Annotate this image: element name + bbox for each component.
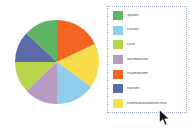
legend-item-label: Kühlen [127,28,139,32]
chart-legend[interactable]: Spülen Kühlen Licht Warmwasser Raumwärme [107,6,187,113]
legend-item[interactable]: Spülen [113,10,184,21]
legend-swatch-icon [113,55,123,64]
legend-swatch-icon [113,84,123,93]
legend-swatch-icon [113,99,123,108]
legend-item[interactable]: Kühlen [113,25,184,36]
legend-item-label: Raumwärme [127,72,148,76]
legend-item[interactable]: Raumwärme [113,69,184,80]
legend-item[interactable]: Licht [113,39,184,50]
legend-item[interactable]: Warmwasser [113,54,184,65]
legend-item[interactable]: Kochen [113,83,184,94]
pie-chart[interactable] [13,18,101,106]
legend-swatch-icon [113,26,123,35]
legend-item-label: Warmwasser [127,58,149,62]
legend-item-label: Licht [127,43,135,47]
legend-item-label: Kommunikationstechnik [127,102,167,106]
pie-chart-svg [13,18,101,106]
legend-item-list: Spülen Kühlen Licht Warmwasser Raumwärme [113,10,184,109]
chart-canvas: Spülen Kühlen Licht Warmwasser Raumwärme [0,0,190,140]
legend-item-label: Spülen [127,14,139,18]
legend-swatch-icon [113,11,123,20]
legend-swatch-icon [113,70,123,79]
pie-slice-group [15,20,99,104]
legend-swatch-icon [113,40,123,49]
legend-item[interactable]: Kommunikationstechnik [113,98,184,109]
legend-item-label: Kochen [127,87,140,91]
